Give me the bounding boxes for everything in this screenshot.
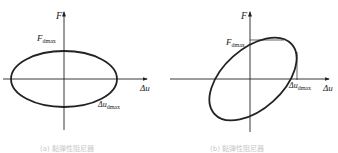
y-axis-label: F — [55, 10, 63, 21]
hysteresis-diagram: F Δu Fdmax Δudmax (a) 黏弹性阻尼器 F Δu Fdmax … — [0, 0, 338, 153]
caption-b: (b) 黏弹性阻尼器 — [210, 144, 264, 153]
panel-a: F Δu Fdmax Δudmax (a) 黏弹性阻尼器 — [3, 10, 150, 153]
x-axis-label: Δu — [139, 83, 150, 93]
x-axis-label: Δu — [322, 83, 333, 93]
y-axis-label: F — [240, 10, 248, 21]
disp-max-label: Δudmax — [97, 100, 120, 110]
panel-b: F Δu Fdmax Δudmax (b) 黏弹性阻尼器 — [170, 10, 333, 153]
caption-a: (a) 黏弹性阻尼器 — [40, 144, 94, 153]
force-max-label: Fdmax — [225, 37, 245, 48]
force-max-label: Fdmax — [36, 33, 56, 44]
disp-max-label: Δudmax — [288, 81, 311, 91]
